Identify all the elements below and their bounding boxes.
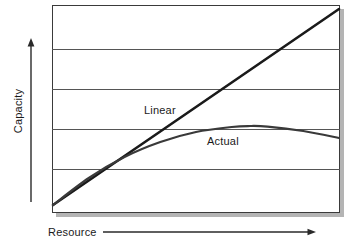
y-axis-group: Capacity <box>0 30 40 205</box>
arrow-right-icon <box>103 227 318 237</box>
x-axis-title: Resource <box>48 226 97 238</box>
series-curve-actual <box>53 126 339 205</box>
plot-area <box>52 5 340 213</box>
series-line-linear <box>53 9 339 205</box>
y-axis-title: Capacity <box>12 41 24 181</box>
x-axis-group: Resource <box>48 222 348 242</box>
series-label-actual: Actual <box>205 135 241 147</box>
series-plot <box>52 5 340 213</box>
series-label-linear: Linear <box>142 104 178 116</box>
arrow-up-icon <box>26 36 36 202</box>
chart-figure: Linear Actual Capacity Resource <box>0 0 352 245</box>
